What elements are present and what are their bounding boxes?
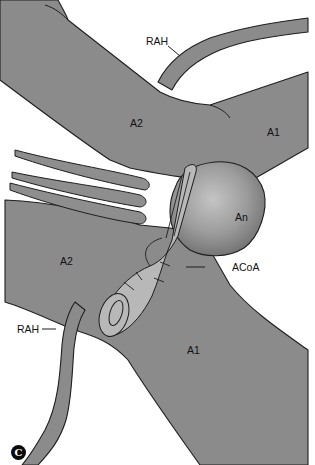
- rah-top-leader: [168, 46, 180, 56]
- label-a1-top: A1: [267, 127, 280, 138]
- label-rah-top: RAH: [146, 36, 168, 47]
- label-a2-top: A2: [130, 118, 143, 129]
- panel-letter-badge: C: [11, 445, 26, 460]
- label-rah-bottom: RAH: [17, 324, 39, 335]
- label-a2-left: A2: [60, 256, 73, 267]
- aneurysm-clip-illustration: [0, 0, 315, 465]
- label-acoa: ACoA: [232, 262, 259, 273]
- label-a1-bottom: A1: [187, 345, 200, 356]
- label-aneurysm: An: [235, 212, 248, 223]
